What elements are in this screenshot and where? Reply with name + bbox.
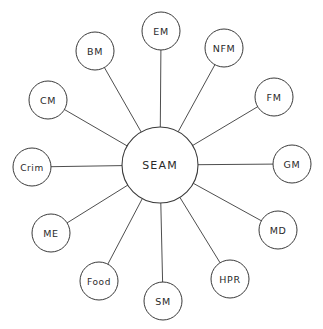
- connector-hpr: [180, 197, 220, 262]
- connector-cm: [64, 110, 127, 146]
- node-label: MD: [270, 225, 287, 236]
- node-label: FM: [267, 92, 282, 103]
- seam-hub-diagram: SEAMEMNFMFMGMMDHPRSMFoodMECrimCMBM: [0, 0, 323, 329]
- connector-bm: [104, 68, 141, 133]
- node-label: Food: [87, 277, 111, 287]
- node-gm: GM: [273, 145, 311, 183]
- connector-sm: [161, 203, 163, 282]
- node-label: BM: [87, 46, 103, 57]
- node-sm: SM: [144, 282, 182, 320]
- node-crim: Crim: [13, 148, 51, 186]
- center-node-seam: SEAM: [122, 127, 198, 203]
- connector-em: [160, 50, 161, 127]
- connector-md: [193, 183, 261, 221]
- connector-me: [67, 185, 128, 223]
- node-label: Crim: [20, 163, 44, 173]
- node-cm: CM: [29, 81, 67, 119]
- connector-fm: [193, 107, 258, 146]
- node-label: EM: [153, 26, 168, 37]
- node-fm: FM: [255, 78, 293, 116]
- node-md: MD: [259, 211, 297, 249]
- connector-crim: [51, 166, 122, 167]
- node-label: SM: [155, 296, 170, 307]
- node-label: NFM: [213, 43, 236, 54]
- center-label: SEAM: [142, 159, 178, 172]
- node-food: Food: [80, 262, 118, 300]
- connector-nfm: [178, 65, 215, 132]
- node-label: HPR: [219, 274, 240, 285]
- node-em: EM: [142, 12, 180, 50]
- node-label: GM: [284, 159, 301, 170]
- node-label: CM: [40, 95, 56, 106]
- node-me: ME: [32, 214, 70, 252]
- node-label: ME: [43, 228, 58, 239]
- connector-gm: [198, 164, 273, 165]
- node-hpr: HPR: [211, 260, 249, 298]
- connector-food: [108, 199, 143, 265]
- node-nfm: NFM: [205, 29, 243, 67]
- node-bm: BM: [76, 32, 114, 70]
